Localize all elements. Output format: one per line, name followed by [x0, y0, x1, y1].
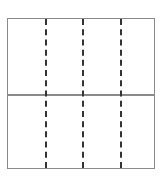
grid-frame	[7, 18, 155, 169]
horizontal-row-divider	[8, 94, 154, 96]
vertical-column-divider-2	[82, 19, 84, 168]
vertical-column-divider-1	[45, 19, 47, 168]
vertical-column-divider-3	[120, 19, 122, 168]
